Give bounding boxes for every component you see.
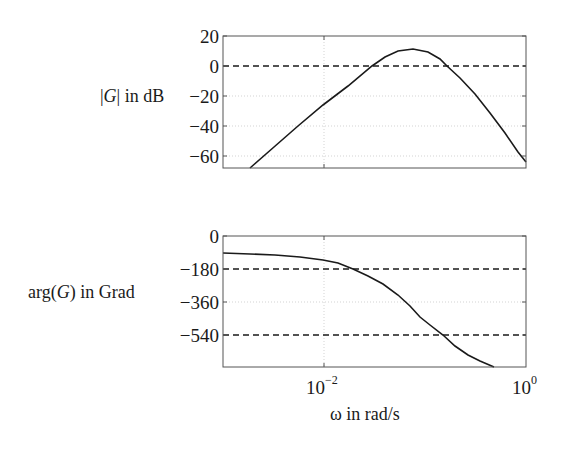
mag-tick-minus40: −40	[189, 116, 219, 137]
phase-axes-frame	[223, 236, 526, 367]
x-tick-1e-2: 10−2	[306, 373, 338, 398]
mag-tick-minus20: −20	[189, 86, 219, 107]
magnitude-curve	[250, 49, 526, 168]
phase-tick-minus360: −360	[180, 292, 219, 313]
phase-tick-0: 0	[210, 226, 220, 247]
x-tick-1e0: 100	[512, 373, 537, 398]
phase-plot: 0 −180 −360 −540 arg(G) in Grad 10−2 100…	[28, 226, 537, 424]
mag-tick-20: 20	[200, 26, 219, 47]
bode-plot: 20 0 −20 −40 −60 |G| in dB	[0, 0, 564, 449]
phase-axis-label: arg(G) in Grad	[28, 282, 135, 303]
magnitude-plot: 20 0 −20 −40 −60 |G| in dB	[100, 26, 526, 168]
mag-tick-minus60: −60	[189, 146, 219, 167]
phase-curve	[223, 253, 494, 367]
phase-tick-minus540: −540	[180, 325, 219, 346]
phase-grid	[223, 236, 526, 367]
mag-tick-0: 0	[210, 56, 220, 77]
magnitude-axis-label: |G| in dB	[100, 86, 164, 106]
frequency-axis-label: ω in rad/s	[330, 404, 400, 424]
phase-tick-minus180: −180	[180, 259, 219, 280]
